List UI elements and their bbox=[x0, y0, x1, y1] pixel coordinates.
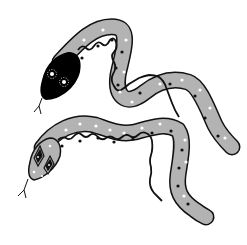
lower-snake-tongue bbox=[18, 179, 28, 198]
lower-snake bbox=[18, 122, 206, 217]
upper-snake-head bbox=[40, 52, 80, 100]
snakes-svg bbox=[0, 0, 247, 245]
snake-illustration: Two decorative snakes bbox=[0, 0, 247, 245]
lower-snake-wave bbox=[58, 132, 162, 201]
upper-snake-tongue bbox=[34, 98, 42, 114]
lower-snake-head bbox=[29, 138, 61, 180]
